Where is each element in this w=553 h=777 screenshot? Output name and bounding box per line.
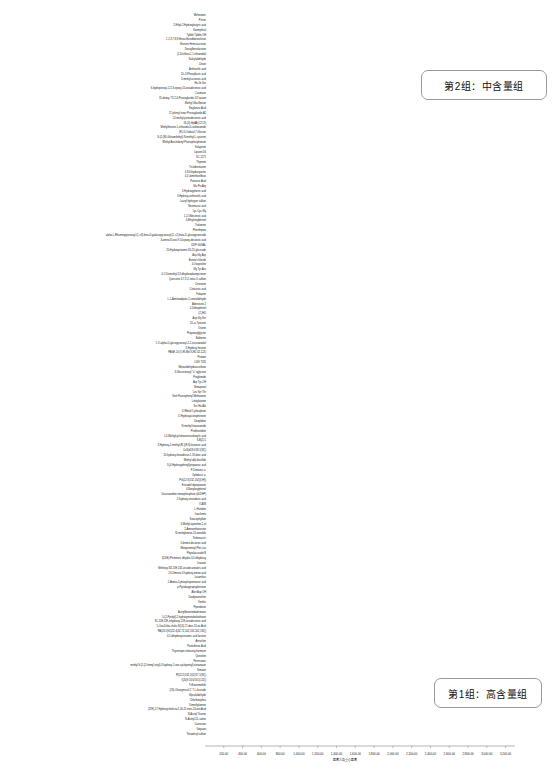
dendrogram-figure: MefenamicPurine2-Ethyl-2-Hydroxybutyric … bbox=[0, 0, 553, 777]
axis-tick-label: 2,600.00 bbox=[444, 752, 455, 756]
axis-tick-label: 3,000.00 bbox=[481, 752, 492, 756]
callout-group-2-label: 第2组：中含量组 bbox=[444, 78, 524, 93]
axis-tick-label: 3,200.00 bbox=[500, 752, 511, 756]
axis-tick-label: 1,400.00 bbox=[331, 752, 342, 756]
axis-tick-label: 1,800.00 bbox=[368, 752, 379, 756]
axis-tick-label: 2,800.00 bbox=[462, 752, 473, 756]
axis-tick-label: 600.00 bbox=[257, 752, 266, 756]
axis-tick-label: 2,400.00 bbox=[425, 752, 436, 756]
dendrogram-tree bbox=[208, 14, 518, 740]
callout-group-1: 第1组：高含量组 bbox=[434, 678, 542, 708]
axis-tick-label: 200.00 bbox=[219, 752, 228, 756]
callout-group-1-label: 第1组：高含量组 bbox=[448, 686, 528, 701]
axis-tick-label: 1,200.00 bbox=[312, 752, 323, 756]
leaf-label-column: MefenamicPurine2-Ethyl-2-Hydroxybutyric … bbox=[0, 14, 208, 738]
axis-tick-label: 800.00 bbox=[276, 752, 285, 756]
dendrogram-plot bbox=[208, 14, 518, 740]
leaf-label: Tetradecyl sulfate bbox=[0, 733, 208, 738]
axis-title: 距离三角重心距离 bbox=[333, 758, 357, 762]
axis-tick-label: 1,600.00 bbox=[350, 752, 361, 756]
axis-tick-label: 1,000.00 bbox=[293, 752, 304, 756]
axis-tick-label: 2,000.00 bbox=[387, 752, 398, 756]
x-axis: 距离三角重心距离 200.00400.00600.00800.001,000.0… bbox=[205, 745, 515, 777]
axis-tick-label: 400.00 bbox=[238, 752, 247, 756]
callout-group-2: 第2组：中含量组 bbox=[421, 70, 547, 100]
axis-tick-label: 2,200.00 bbox=[406, 752, 417, 756]
